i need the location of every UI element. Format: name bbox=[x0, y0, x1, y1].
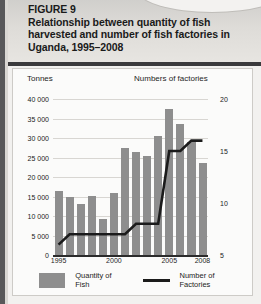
y-tick-label: 10 000 bbox=[28, 213, 49, 220]
y-tick-label: 35 000 bbox=[28, 115, 49, 122]
x-tick-label-2000: 2000 bbox=[106, 257, 122, 264]
figure-header-text: FIGURE 9 Relationship between quantity o… bbox=[28, 3, 255, 53]
y2-tick-label: 5 bbox=[220, 252, 224, 259]
y2-tick-label: 20 bbox=[220, 96, 228, 103]
figure-page: FIGURE 9 Relationship between quantity o… bbox=[0, 0, 261, 304]
y-tick-label: 20 000 bbox=[28, 174, 49, 181]
legend-swatch-quantity-of-fish bbox=[39, 273, 65, 288]
header-divider-rule bbox=[8, 62, 261, 66]
chart-legend: Quantity of Fish Number of Factories bbox=[39, 270, 239, 290]
figure-title: Relationship between quantity of fish ha… bbox=[28, 16, 255, 54]
legend-swatch-number-of-factories bbox=[143, 279, 169, 282]
figure-number: FIGURE 9 bbox=[28, 3, 255, 16]
y-tick-label: 0 bbox=[45, 252, 49, 259]
x-tick-label-2008: 2008 bbox=[195, 257, 211, 264]
line-path bbox=[59, 141, 203, 245]
y2-tick-label: 15 bbox=[220, 148, 228, 155]
x-tick-label-2005: 2005 bbox=[161, 257, 177, 264]
x-axis-tick-labels: 1995200020052008 bbox=[53, 257, 208, 269]
y-tick-label: 5 000 bbox=[31, 232, 49, 239]
plot-area: 05 00010 00015 00020 00025 00030 00035 0… bbox=[53, 99, 208, 255]
figure-header-band: FIGURE 9 Relationship between quantity o… bbox=[8, 0, 261, 62]
y-tick-label: 15 000 bbox=[28, 193, 49, 200]
y-axis-title: Tonnes bbox=[27, 74, 53, 83]
x-tick-label-1995: 1995 bbox=[51, 257, 67, 264]
chart-panel: Tonnes Numbers of factories 05 00010 000… bbox=[12, 68, 253, 296]
y-tick-label: 30 000 bbox=[28, 135, 49, 142]
legend-label-number-of-factories: Number of Factories bbox=[180, 271, 239, 289]
legend-label-quantity-of-fish: Quantity of Fish bbox=[75, 271, 121, 289]
line-series-number-of-factories bbox=[53, 99, 208, 255]
y-tick-label: 40 000 bbox=[28, 96, 49, 103]
y-tick-label: 25 000 bbox=[28, 154, 49, 161]
y2-axis-title: Numbers of factories bbox=[134, 74, 208, 83]
y2-tick-label: 10 bbox=[220, 200, 228, 207]
